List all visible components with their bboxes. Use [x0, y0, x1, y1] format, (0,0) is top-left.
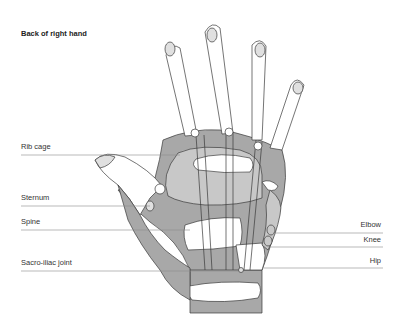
- wrist-band: [188, 282, 261, 302]
- knee-point: [264, 236, 272, 246]
- thumb-knuckle: [155, 184, 165, 194]
- rib-cage-inner: [193, 155, 253, 173]
- ring-nail: [255, 43, 265, 57]
- index-finger: [166, 46, 197, 136]
- hand-diagram: [0, 0, 403, 331]
- index-nail: [165, 42, 175, 56]
- elbow-point: [267, 225, 275, 235]
- sacro-iliac-point: [239, 268, 244, 273]
- little-nail: [293, 82, 303, 94]
- middle-nail: [207, 28, 217, 42]
